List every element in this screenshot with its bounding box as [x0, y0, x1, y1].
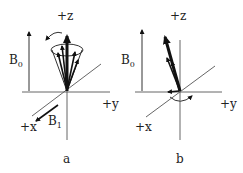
y-label: +y — [220, 97, 237, 111]
b0-label: B0 — [9, 53, 23, 69]
nmr-diagram: B0 B1 +z +y +x a B0 — [0, 0, 243, 173]
x-axis — [146, 66, 215, 117]
b1-label: B1 — [48, 114, 62, 130]
z-label: +z — [57, 9, 73, 23]
z-label: +z — [170, 9, 186, 23]
panel-b: B0 +z +y +x b — [121, 9, 237, 166]
transverse-vector — [168, 91, 179, 92]
caption-b: b — [176, 152, 184, 166]
x-label: +x — [20, 120, 37, 134]
b0-label: B0 — [121, 53, 135, 69]
precession-arrow-icon — [46, 32, 62, 40]
panel-a: B0 B1 +z +y +x a — [9, 9, 119, 166]
net-magnetization-vector — [165, 37, 180, 91]
caption-a: a — [63, 152, 70, 166]
x-label: +x — [135, 120, 152, 134]
y-label: +y — [102, 97, 119, 111]
